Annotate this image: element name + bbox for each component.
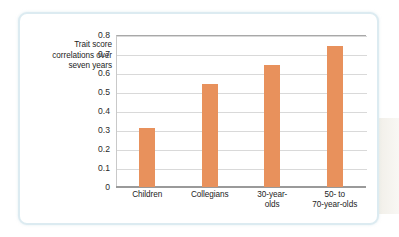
y-tick-label: 0 [105, 182, 110, 192]
bar [202, 84, 218, 187]
y-tick-label: 0.3 [98, 125, 110, 135]
x-tick-label: 30-year-olds [236, 190, 308, 211]
bar [139, 128, 155, 187]
bar [264, 65, 280, 187]
y-tick-label: 0.7 [98, 49, 110, 59]
y-tick-label: 0.1 [98, 163, 110, 173]
y-tick-label: 0.8 [98, 30, 110, 40]
x-tick-label-line: 30-year- [236, 190, 308, 200]
y-tick-label: 0.6 [98, 68, 110, 78]
x-tick-label: Collegians [174, 190, 246, 200]
bar-chart: Trait score correlations over seven year… [20, 14, 381, 223]
chart-card: Trait score correlations over seven year… [18, 12, 379, 225]
x-tick-label-line: 50- to [299, 190, 371, 200]
y-tick-label: 0.4 [98, 106, 110, 116]
x-tick-label: 50- to70-year-olds [299, 190, 371, 211]
x-axis-tick-labels: ChildrenCollegians30-year-olds50- to70-y… [116, 190, 366, 222]
y-axis-tick-labels: 00.10.20.30.40.50.60.70.8 [20, 35, 114, 187]
x-tick-label: Children [111, 190, 183, 200]
x-tick-label-line: Children [111, 190, 183, 200]
x-tick-label-line: olds [236, 200, 308, 210]
x-tick-label-line: 70-year-olds [299, 200, 371, 210]
y-tick-label: 0.5 [98, 87, 110, 97]
y-tick-label: 0.2 [98, 144, 110, 154]
x-tick-label-line: Collegians [174, 190, 246, 200]
bar-series [116, 35, 366, 187]
bar [327, 46, 343, 187]
chart-page: Trait score correlations over seven year… [0, 0, 399, 237]
